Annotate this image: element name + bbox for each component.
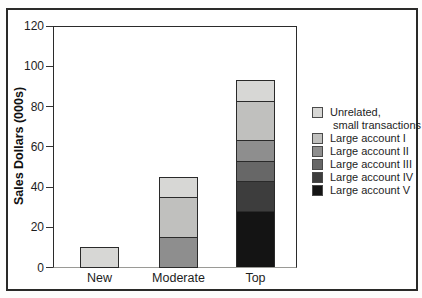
bar-segment-top-large-account-v xyxy=(237,211,274,266)
bar-segment-top-large-account-ii xyxy=(237,140,274,160)
x-axis-label-new: New xyxy=(60,271,140,285)
legend-swatch xyxy=(312,133,323,144)
y-axis-tick-label: 20 xyxy=(31,220,44,234)
bar-segment-moderate-large-account-i xyxy=(160,197,197,236)
legend-item: Large account II xyxy=(312,145,416,158)
chart-legend: Unrelated,small transactionsLarge accoun… xyxy=(312,106,416,197)
bar-new xyxy=(80,247,119,267)
legend-swatch xyxy=(312,146,323,157)
y-axis-tick xyxy=(46,66,53,67)
legend-label: Large account II xyxy=(330,145,409,158)
legend-swatch xyxy=(312,159,323,170)
bar-moderate xyxy=(159,177,198,268)
y-axis-tick xyxy=(46,26,53,27)
legend-label: Large account V xyxy=(330,184,410,197)
y-axis-tick xyxy=(46,267,53,268)
bar-segment-moderate-large-account-ii xyxy=(160,237,197,267)
y-axis-tick xyxy=(46,227,53,228)
legend-swatch xyxy=(312,172,323,183)
legend-item: Unrelated,small transactions xyxy=(312,106,416,132)
bar-segment-top-large-account-iii xyxy=(237,161,274,181)
y-axis-tick-label: 80 xyxy=(31,100,44,114)
y-axis-tick-label: 100 xyxy=(24,59,44,73)
y-axis-tick xyxy=(46,146,53,147)
stacked-bar-chart-figure: Sales Dollars (000s) 020406080100120NewM… xyxy=(0,0,422,298)
y-axis-tick xyxy=(46,187,53,188)
bar-top xyxy=(236,80,275,267)
y-axis-tick-label: 0 xyxy=(37,261,44,275)
bar-segment-top-unrelated-small-transactions xyxy=(237,81,274,100)
bar-segment-new-unrelated-small-transactions xyxy=(81,248,118,266)
bar-segment-top-large-account-i xyxy=(237,101,274,141)
bar-segment-top-large-account-iv xyxy=(237,181,274,211)
y-axis-tick-label: 120 xyxy=(24,19,44,33)
legend-label: Large account IV xyxy=(330,171,413,184)
y-axis-tick xyxy=(46,106,53,107)
bar-segment-moderate-unrelated-small-transactions xyxy=(160,178,197,197)
x-axis-label-top: Top xyxy=(216,271,296,285)
legend-swatch xyxy=(312,107,323,118)
legend-label: Large account I xyxy=(330,132,406,145)
legend-label: Large account III xyxy=(330,158,412,171)
y-axis-title: Sales Dollars (000s) xyxy=(12,87,26,205)
legend-swatch xyxy=(312,185,323,196)
y-axis-tick-label: 60 xyxy=(31,140,44,154)
x-axis-label-moderate: Moderate xyxy=(139,271,219,285)
legend-item: Large account III xyxy=(312,158,416,171)
legend-label: Unrelated,small transactions xyxy=(330,106,421,132)
y-axis-tick-label: 40 xyxy=(31,180,44,194)
legend-item: Large account IV xyxy=(312,171,416,184)
legend-item: Large account I xyxy=(312,132,416,145)
legend-item: Large account V xyxy=(312,184,416,197)
